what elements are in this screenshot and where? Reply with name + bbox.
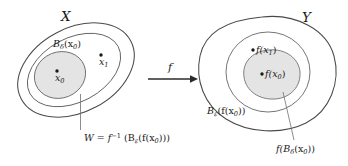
ball-eps-label: Bε(f(x0))	[206, 105, 245, 118]
image-ball-delta-label: f(Bδ(x0))	[275, 143, 315, 156]
image-point-fx0-dot	[260, 72, 263, 75]
ball-delta-x0-label: Bδ(x0)	[52, 38, 81, 51]
set-x-label: X	[60, 8, 72, 24]
map-arrow-head	[190, 75, 198, 83]
map-arrow-group: f	[148, 61, 198, 83]
map-arrow-label: f	[167, 61, 174, 74]
image-ball-leader-line	[283, 92, 294, 140]
domain-group: X Bδ(x0) x0 x1 W = f−1 (Bε(f(x0)))	[2, 4, 170, 145]
set-y-label: Y	[302, 9, 312, 25]
set-w-definition-label: W = f−1 (Bε(f(x0)))	[84, 132, 170, 146]
point-x1-label: x1	[99, 56, 109, 69]
image-point-fx1-dot	[251, 48, 254, 51]
codomain-group: Y f(x1) f(x0) Bε(f(x0)) f(Bδ(x0))	[199, 9, 336, 156]
continuity-diagram-svg: X Bδ(x0) x0 x1 W = f−1 (Bε(f(x0)))	[0, 0, 348, 166]
math-diagram-container: X Bδ(x0) x0 x1 W = f−1 (Bε(f(x0)))	[0, 0, 348, 166]
